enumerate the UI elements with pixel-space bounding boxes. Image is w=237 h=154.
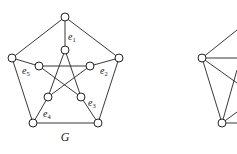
edge-label: e1: [68, 31, 76, 43]
graph-edge: [12, 17, 65, 58]
graph-vertex: [94, 119, 102, 127]
graph-vertex: [218, 119, 226, 127]
graph-vertex: [86, 62, 94, 70]
graph-vertex: [77, 93, 85, 101]
graph-vertex: [29, 119, 37, 127]
graph-edge: [90, 58, 119, 66]
edge-label: e3: [88, 97, 96, 109]
graph-edge-offscreen: [202, 58, 237, 83]
graph-vertex: [61, 13, 69, 21]
graph-vertex: [44, 93, 52, 101]
graph-vertex: [8, 54, 16, 62]
graph-vertex: [115, 54, 123, 62]
graph-edge: [65, 50, 81, 97]
edge-label: e2: [100, 65, 108, 77]
graph-vertex: [35, 62, 43, 70]
edge-label: e4: [43, 108, 51, 120]
graph-edge: [202, 58, 222, 123]
graph-edge: [48, 66, 90, 97]
edge-label: e5: [22, 65, 30, 77]
graph-vertex: [198, 54, 206, 62]
graph-vertex: [61, 46, 69, 54]
graph-edge-offscreen: [202, 30, 237, 58]
graph-edge: [39, 66, 81, 97]
graph-figure: e1e2e3e4e5 G: [0, 0, 237, 154]
graph-edge: [48, 50, 65, 97]
graph-caption-g: G: [61, 130, 70, 144]
